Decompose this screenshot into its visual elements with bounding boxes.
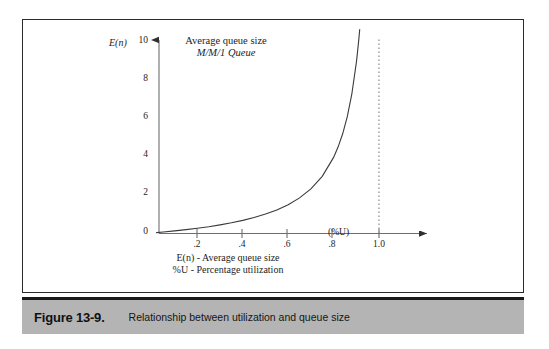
figure-caption-bar: Figure 13-9. Relationship between utiliz… [22, 297, 524, 334]
legend-note-line-1: E(n) - Average queue size [123, 252, 333, 264]
x-tick-label-1-0: 1.0 [368, 239, 390, 249]
chart-legend-note: E(n) - Average queue size %U - Percentag… [123, 252, 333, 276]
x-tick-label-0-6: .6 [276, 239, 298, 249]
y-tick-label-4: 4 [128, 149, 148, 159]
y-axis-caption: E(n) [109, 37, 127, 49]
y-tick-label-0: 0 [128, 226, 148, 236]
y-tick-label-6: 6 [128, 111, 148, 121]
chart-title: Average queue size M/M/1 Queue [141, 35, 311, 60]
figure-frame: Average queue size M/M/1 Queue E(n) (%U)… [22, 19, 524, 293]
y-tick-label-2: 2 [128, 187, 148, 197]
figure-caption-number: Figure 13-9. [34, 310, 105, 325]
y-tick-label-10: 10 [128, 35, 148, 45]
x-tick-label-0-4: .4 [231, 239, 253, 249]
chart-title-line1: Average queue size [141, 35, 311, 47]
x-tick-label-0-2: .2 [186, 239, 208, 249]
queue-size-curve [157, 30, 360, 233]
x-tick-label-0-8: .8 [321, 239, 343, 249]
screenshot-root: Average queue size M/M/1 Queue E(n) (%U)… [0, 0, 549, 349]
legend-note-line-2: %U - Percentage utilization [123, 264, 333, 276]
figure-caption-text: Relationship between utilization and que… [129, 311, 350, 323]
x-axis-caption: (%U) [328, 227, 349, 238]
y-tick-label-8: 8 [128, 73, 148, 83]
chart-plot-area: Average queue size M/M/1 Queue E(n) (%U)… [23, 20, 525, 294]
chart-subtitle: M/M/1 Queue [141, 47, 311, 59]
